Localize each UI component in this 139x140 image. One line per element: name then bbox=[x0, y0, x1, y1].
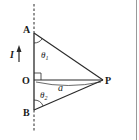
right-angle-marker bbox=[34, 73, 41, 80]
current-label: I bbox=[9, 49, 15, 60]
theta2-arc bbox=[34, 100, 43, 106]
wire-field-diagram: A O B P I θ1 θ2 a bbox=[0, 0, 139, 140]
theta1-label: θ1 bbox=[41, 50, 48, 61]
point-label-a: A bbox=[23, 24, 31, 35]
theta1-arc bbox=[34, 39, 42, 43]
current-arrow-icon bbox=[17, 45, 22, 52]
theta2-label: θ2 bbox=[40, 90, 47, 101]
point-label-o: O bbox=[22, 75, 30, 86]
point-label-b: B bbox=[23, 107, 30, 118]
point-label-p: P bbox=[105, 75, 111, 86]
distance-a-label: a bbox=[58, 82, 63, 93]
